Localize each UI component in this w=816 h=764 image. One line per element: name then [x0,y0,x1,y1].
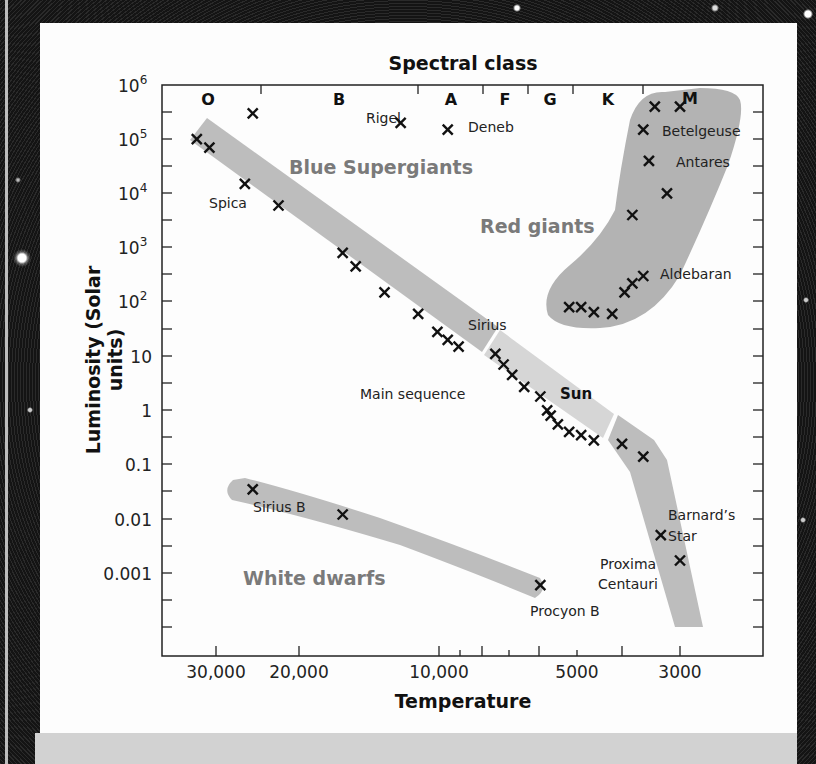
xtick-10000: 10,000 [409,662,468,682]
class-F: F [500,90,511,109]
ytick-10: 10 [130,347,152,367]
star-marker-x-icon [564,427,574,437]
star-marker-x-icon [248,108,258,118]
ytick-0.01: 0.01 [114,510,152,530]
label-main-sequence: Main sequence [360,386,465,402]
label-spica: Spica [209,195,247,211]
hr-diagram: Spectral class Temperature Luminosity (S… [0,0,816,764]
ytick-0.1: 0.1 [125,455,152,475]
label-deneb: Deneb [468,119,514,135]
label-blue-supergiants: Blue Supergiants [289,156,473,178]
star-marker-x-icon [443,335,453,345]
ytick-1e4: 104 [118,181,147,204]
y-tick-labels: 106 105 104 103 102 10 1 0.1 0.01 0.001 [103,73,152,584]
class-G: G [543,90,556,109]
star-marker-x-icon [542,405,552,415]
label-sirius-b: Sirius B [253,499,306,515]
ytick-1e5: 105 [118,127,147,150]
label-sirius: Sirius [468,317,507,333]
y-axis-title-line2: units) [104,329,126,392]
y-axis-ticks-right [753,112,763,627]
star-marker-x-icon [454,342,464,352]
label-barnards-2: Star [668,528,697,544]
class-M: M [682,89,698,108]
class-A: A [445,90,458,109]
spectral-class-title: Spectral class [388,52,537,74]
label-procyon-b: Procyon B [530,603,600,619]
xtick-30000: 30,000 [186,662,245,682]
class-K: K [602,90,615,109]
label-proxima-1: Proxima [600,556,656,572]
label-red-giants: Red giants [480,215,595,237]
label-betelgeuse: Betelgeuse [662,123,741,139]
star-marker-x-icon [240,179,250,189]
class-B: B [333,90,345,109]
ytick-1e6: 106 [118,73,147,96]
xtick-5000: 5000 [555,662,598,682]
label-sun: Sun [560,385,592,403]
y-axis-ticks-left [162,112,172,627]
x-tick-labels: 30,000 20,000 10,000 5000 3000 [186,662,701,682]
label-proxima-2: Centauri [598,576,658,592]
star-marker-x-icon [553,419,563,429]
ytick-1e2: 102 [118,289,147,312]
class-O: O [201,90,215,109]
label-white-dwarfs: White dwarfs [243,567,386,589]
star-marker-x-icon [576,430,586,440]
star-marker-x-icon [443,125,453,135]
spectral-class-letters: O B A F G K M [201,89,698,109]
ytick-1: 1 [141,401,152,421]
band-upper-main-sequence [190,118,498,352]
star-marker-x-icon [413,309,423,319]
x-axis-ticks [216,646,680,656]
star-marker-x-icon [432,327,442,337]
xtick-20000: 20,000 [269,662,328,682]
y-axis-title-line1: Luminosity (Solar [82,265,104,454]
ytick-1e3: 103 [118,235,147,258]
x-axis-title: Temperature [395,690,532,712]
ytick-0.001: 0.001 [103,564,152,584]
band-middle-main-sequence [484,330,614,438]
label-barnards-1: Barnard’s [668,507,735,523]
star-marker-x-icon [519,382,529,392]
label-aldebaran: Aldebaran [660,266,732,282]
label-antares: Antares [676,154,730,170]
xtick-3000: 3000 [658,662,701,682]
star-marker-x-icon [380,287,390,297]
star-marker-x-icon [589,435,599,445]
star-marker-x-icon [351,261,361,271]
